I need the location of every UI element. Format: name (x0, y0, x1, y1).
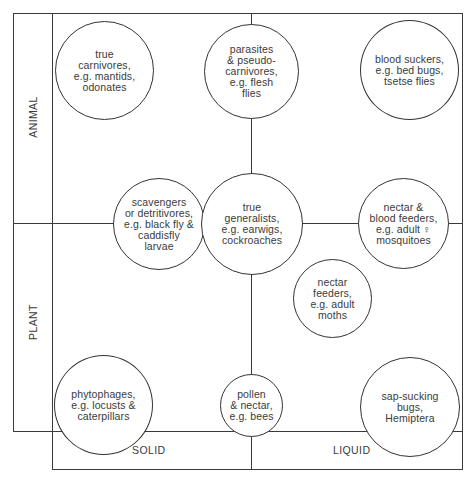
frame-right (462, 13, 463, 470)
node-label: true generalists, e.g. earwigs, cockroac… (222, 202, 283, 246)
node-label: pollen & nectar, e.g. bees (229, 389, 273, 422)
node-nectar-feeders: nectar feeders, e.g. adult moths (293, 259, 372, 338)
node-label: phytophages, e.g. locusts & caterpillars (71, 389, 135, 422)
node-label: nectar feeders, e.g. adult moths (310, 277, 354, 321)
node-label: nectar & blood feeders, e.g. adult ♀ mos… (370, 202, 438, 246)
node-label: blood suckers, e.g. bed bugs, tsetse fli… (375, 54, 444, 87)
axis-label-solid: SOLID (132, 444, 166, 456)
node-label: sap-sucking bugs, Hemiptera (381, 391, 438, 424)
node-label: scavengers or detritivores, e.g. black f… (124, 197, 194, 252)
frame-label-divider (52, 13, 53, 470)
node-label: parasites & pseudo- carnivores, e.g. fle… (225, 44, 277, 99)
node-parasites: parasites & pseudo- carnivores, e.g. fle… (204, 24, 299, 119)
axis-label-plant: PLANT (27, 282, 39, 362)
frame-bottom (52, 469, 463, 470)
axis-label-animal: ANIMAL (27, 77, 39, 157)
node-label: true carnivores, e.g. mantids, odonates (74, 49, 135, 93)
feeding-habits-diagram: ANIMAL PLANT SOLID LIQUID true carnivore… (0, 0, 472, 481)
axis-label-liquid: LIQUID (333, 444, 370, 456)
node-phytophages: phytophages, e.g. locusts & caterpillars (54, 355, 153, 455)
node-blood-suckers: blood suckers, e.g. bed bugs, tsetse fli… (360, 20, 459, 120)
node-true-generalists: true generalists, e.g. earwigs, cockroac… (201, 173, 303, 275)
node-true-carnivores: true carnivores, e.g. mantids, odonates (55, 21, 154, 120)
frame-top (13, 13, 463, 14)
node-nectar-blood-feeders: nectar & blood feeders, e.g. adult ♀ mos… (358, 178, 449, 269)
node-sap-sucking: sap-sucking bugs, Hemiptera (360, 357, 460, 457)
node-scavengers: scavengers or detritivores, e.g. black f… (113, 178, 205, 270)
node-pollen-nectar: pollen & nectar, e.g. bees (220, 374, 283, 437)
